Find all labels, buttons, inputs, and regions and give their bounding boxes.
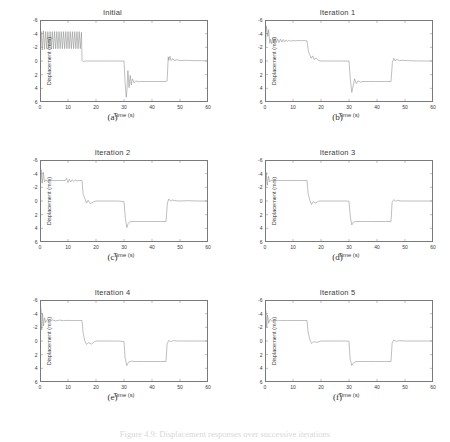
y-tick-label: -2	[33, 184, 37, 190]
plot-area: 6420-2-4-60102030405060Displacement (mm)…	[40, 20, 208, 102]
y-tick-label: -4	[33, 311, 37, 317]
x-tick-label: 30	[346, 104, 352, 110]
y-tick-label: -4	[33, 171, 37, 177]
y-tick-label: -6	[33, 157, 37, 163]
x-tick-label: 10	[65, 104, 71, 110]
x-tick-label: 0	[39, 384, 42, 390]
y-tick-label: -2	[258, 324, 262, 330]
y-tick-label: 6	[35, 239, 38, 245]
y-tick-label: 2	[260, 72, 263, 78]
x-tick-label: 60	[205, 384, 211, 390]
x-tick-label: 0	[264, 384, 267, 390]
y-tick-label: 6	[260, 239, 263, 245]
subplot-caption: (b)	[225, 112, 450, 122]
x-tick-label: 30	[121, 244, 127, 250]
displacement-trace	[265, 311, 433, 366]
subplot-d: Iteration 36420-2-4-60102030405060Displa…	[225, 140, 450, 280]
x-tick-label: 40	[149, 384, 155, 390]
y-tick-label: 6	[260, 99, 263, 105]
y-tick-label: 2	[260, 352, 263, 358]
plot-area: 6420-2-4-60102030405060Displacement (mm)…	[265, 160, 433, 242]
x-tick-label: 30	[346, 384, 352, 390]
x-tick-label: 40	[149, 104, 155, 110]
figure-caption: Figure 4.9: Displacement responses over …	[0, 429, 450, 440]
y-axis-label: Displacement (mm)	[271, 298, 277, 384]
y-tick-label: -6	[258, 297, 262, 303]
displacement-trace	[265, 26, 433, 92]
x-tick-label: 60	[430, 384, 436, 390]
subplot-caption: (e)	[0, 392, 225, 402]
y-tick-label: 6	[260, 379, 263, 385]
y-tick-label: 0	[260, 338, 263, 344]
y-tick-label: 4	[35, 365, 38, 371]
y-tick-label: -2	[33, 44, 37, 50]
panel-title: Initial	[0, 8, 225, 17]
y-tick-label: 2	[35, 72, 38, 78]
y-tick-label: 2	[35, 212, 38, 218]
subplot-b: Iteration 16420-2-4-60102030405060Displa…	[225, 0, 450, 140]
x-tick-label: 60	[430, 244, 436, 250]
panel-title: Iteration 3	[225, 148, 450, 157]
x-tick-label: 50	[402, 384, 408, 390]
subplot-f: Iteration 56420-2-4-60102030405060Displa…	[225, 280, 450, 420]
trace-svg	[265, 20, 433, 102]
x-tick-label: 60	[205, 104, 211, 110]
subplot-caption: (f)	[225, 392, 450, 402]
x-tick-label: 20	[93, 244, 99, 250]
x-tick-label: 50	[177, 104, 183, 110]
y-tick-label: -2	[258, 184, 262, 190]
subplot-c: Iteration 26420-2-4-60102030405060Displa…	[0, 140, 225, 280]
x-tick-label: 60	[430, 104, 436, 110]
y-tick-label: -6	[258, 17, 262, 23]
displacement-trace	[40, 31, 208, 97]
y-tick-label: -4	[258, 31, 262, 37]
y-tick-label: -6	[258, 157, 262, 163]
y-tick-label: 0	[35, 198, 38, 204]
x-tick-label: 20	[318, 384, 324, 390]
y-tick-label: -6	[33, 297, 37, 303]
x-tick-label: 10	[290, 244, 296, 250]
subplot-a: Initial6420-2-4-60102030405060Displaceme…	[0, 0, 225, 140]
trace-svg	[40, 20, 208, 102]
y-tick-label: 4	[35, 85, 38, 91]
subplot-e: Iteration 46420-2-4-60102030405060Displa…	[0, 280, 225, 420]
y-axis-label: Displacement (mm)	[271, 18, 277, 104]
subplot-caption: (a)	[0, 112, 225, 122]
x-tick-label: 10	[65, 244, 71, 250]
y-axis-label: Displacement (mm)	[46, 298, 52, 384]
x-tick-label: 30	[121, 384, 127, 390]
y-tick-label: 0	[260, 58, 263, 64]
y-tick-label: 2	[35, 352, 38, 358]
trace-svg	[40, 300, 208, 382]
x-tick-label: 50	[402, 244, 408, 250]
panel-title: Iteration 5	[225, 288, 450, 297]
displacement-trace	[40, 170, 208, 228]
y-axis-label: Displacement (mm)	[46, 18, 52, 104]
panel-title: Iteration 2	[0, 148, 225, 157]
x-tick-label: 0	[39, 244, 42, 250]
y-tick-label: 0	[35, 58, 38, 64]
x-tick-label: 0	[39, 104, 42, 110]
x-tick-label: 10	[290, 384, 296, 390]
x-tick-label: 0	[264, 244, 267, 250]
y-tick-label: 4	[260, 365, 263, 371]
y-axis-label: Displacement (mm)	[46, 158, 52, 244]
trace-svg	[265, 160, 433, 242]
plot-area: 6420-2-4-60102030405060Displacement (mm)…	[40, 300, 208, 382]
y-tick-label: 0	[35, 338, 38, 344]
y-tick-label: 6	[35, 379, 38, 385]
displacement-trace	[265, 172, 433, 225]
x-tick-label: 40	[374, 244, 380, 250]
y-tick-label: 4	[35, 225, 38, 231]
y-tick-label: -6	[33, 17, 37, 23]
x-tick-label: 40	[149, 244, 155, 250]
y-tick-label: 2	[260, 212, 263, 218]
figure-sheet: Initial6420-2-4-60102030405060Displaceme…	[0, 0, 450, 442]
x-tick-label: 10	[65, 384, 71, 390]
displacement-trace	[40, 308, 208, 365]
y-tick-label: -2	[258, 44, 262, 50]
y-tick-label: 4	[260, 85, 263, 91]
x-tick-label: 30	[346, 244, 352, 250]
subplot-grid: Initial6420-2-4-60102030405060Displaceme…	[0, 0, 450, 420]
trace-svg	[265, 300, 433, 382]
